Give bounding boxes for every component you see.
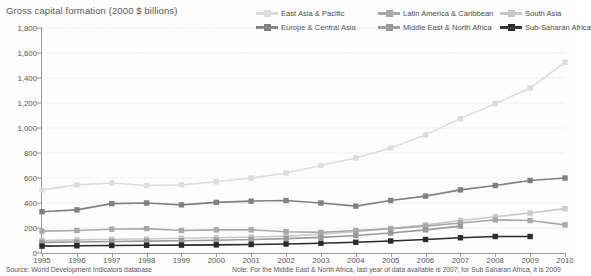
x-axis-tick-label: 2001	[243, 256, 260, 265]
data-point-marker	[318, 200, 323, 205]
x-axis-tick	[321, 253, 322, 257]
plot-area	[42, 28, 565, 253]
data-point-marker	[74, 228, 79, 233]
x-axis-tick	[460, 253, 461, 257]
y-axis-tick-label: 1,600	[17, 49, 37, 58]
data-point-marker	[39, 209, 44, 214]
data-point-marker	[214, 242, 219, 247]
series-latin-america-caribbean	[39, 217, 567, 235]
x-axis-tick	[181, 253, 182, 257]
data-point-marker	[527, 210, 532, 215]
data-point-marker	[353, 228, 358, 233]
data-point-marker	[179, 202, 184, 207]
x-axis-tick	[356, 253, 357, 257]
legend-item[interactable]: East Asia & Pacific	[256, 9, 378, 18]
availability-note: Note: For the Middle East & North Africa…	[232, 266, 561, 273]
data-point-marker	[562, 222, 567, 227]
x-axis-tick-label: 2004	[347, 256, 364, 265]
data-point-marker	[353, 203, 358, 208]
data-point-marker	[144, 200, 149, 205]
data-point-marker	[318, 235, 323, 240]
x-axis-tick-label: 2009	[521, 256, 538, 265]
series-line	[42, 62, 565, 190]
x-axis-tick	[565, 253, 566, 257]
data-point-marker	[562, 206, 567, 211]
data-point-marker	[493, 234, 498, 239]
x-axis-tick-label: 2007	[452, 256, 469, 265]
data-point-marker	[388, 230, 393, 235]
y-axis-tick-label: 600	[24, 174, 37, 183]
x-axis-line	[41, 253, 566, 254]
x-axis-tick	[77, 253, 78, 257]
data-point-marker	[493, 183, 498, 188]
data-point-marker	[249, 237, 254, 242]
chart-title: Gross capital formation (2000 $ billions…	[6, 5, 177, 16]
x-axis-tick-label: 2000	[208, 256, 225, 265]
y-axis-tick-label: 1,800	[17, 24, 37, 33]
x-axis-tick	[286, 253, 287, 257]
data-point-marker	[249, 198, 254, 203]
legend-swatch-icon	[256, 12, 278, 15]
x-axis-tick-label: 1999	[173, 256, 190, 265]
y-axis-tick-label: 1,400	[17, 74, 37, 83]
x-axis-tick-label: 1998	[138, 256, 155, 265]
legend-item[interactable]: Latin America & Caribbean	[378, 9, 500, 18]
data-point-marker	[283, 229, 288, 234]
data-point-marker	[74, 207, 79, 212]
data-point-marker	[144, 243, 149, 248]
series-east-asia-pacific	[39, 60, 567, 193]
data-point-marker	[39, 243, 44, 248]
x-axis-tick	[112, 253, 113, 257]
legend-label: Latin America & Caribbean	[403, 9, 493, 18]
y-axis-tick-label: 1,200	[17, 99, 37, 108]
legend-label: South Asia	[525, 9, 561, 18]
data-point-marker	[562, 60, 567, 65]
data-point-marker	[283, 170, 288, 175]
x-axis-tick-label: 2010	[556, 256, 573, 265]
data-point-marker	[249, 175, 254, 180]
x-axis-tick-label: 2006	[417, 256, 434, 265]
data-point-marker	[249, 227, 254, 232]
legend-item[interactable]: South Asia	[500, 9, 568, 18]
x-axis-tick	[251, 253, 252, 257]
data-point-marker	[109, 180, 114, 185]
data-point-marker	[423, 193, 428, 198]
data-point-marker	[109, 243, 114, 248]
x-axis-tick	[147, 253, 148, 257]
data-point-marker	[458, 235, 463, 240]
data-point-marker	[388, 145, 393, 150]
x-axis-tick-label: 2002	[277, 256, 294, 265]
data-point-marker	[74, 182, 79, 187]
x-axis-tick-label: 1996	[68, 256, 85, 265]
source-note: Source: World Development Indicators dat…	[6, 266, 152, 273]
data-point-marker	[493, 217, 498, 222]
data-point-marker	[458, 116, 463, 121]
data-point-marker	[214, 227, 219, 232]
legend-label: East Asia & Pacific	[281, 9, 344, 18]
data-point-marker	[318, 241, 323, 246]
x-axis-tick-label: 2003	[312, 256, 329, 265]
data-point-marker	[527, 234, 532, 239]
data-point-marker	[527, 218, 532, 223]
data-point-marker	[214, 179, 219, 184]
data-point-marker	[109, 201, 114, 206]
x-axis-tick-label: 2005	[382, 256, 399, 265]
data-point-marker	[527, 85, 532, 90]
data-point-marker	[74, 243, 79, 248]
x-axis-tick	[426, 253, 427, 257]
data-point-marker	[283, 236, 288, 241]
data-point-marker	[179, 242, 184, 247]
legend-swatch-icon	[500, 12, 522, 15]
data-point-marker	[562, 175, 567, 180]
data-point-marker	[39, 228, 44, 233]
x-axis-tick-label: 1997	[103, 256, 120, 265]
data-point-marker	[388, 238, 393, 243]
data-point-marker	[423, 227, 428, 232]
data-point-marker	[214, 200, 219, 205]
data-point-marker	[353, 233, 358, 238]
y-axis-tick-label: 1,000	[17, 124, 37, 133]
legend-swatch-icon	[378, 12, 400, 15]
data-point-marker	[283, 241, 288, 246]
data-point-marker	[144, 226, 149, 231]
